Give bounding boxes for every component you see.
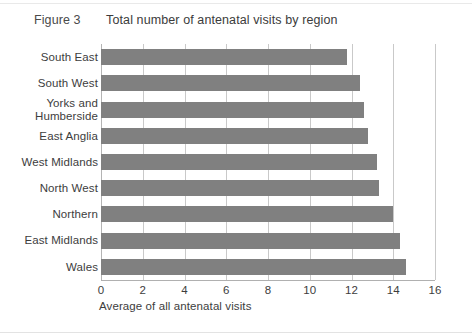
category-label-wales: Wales xyxy=(0,261,98,274)
x-tick-label-12: 12 xyxy=(345,284,358,296)
category-label-line: South East xyxy=(0,51,98,64)
category-axis: South EastSouth WestYorks andHumbersideE… xyxy=(0,44,98,280)
x-tick-label-16: 16 xyxy=(429,284,442,296)
category-label-south-west: South West xyxy=(0,77,98,90)
plot-area xyxy=(101,44,435,280)
x-axis-title: Average of all antenatal visits xyxy=(99,300,251,312)
category-label-south-east: South East xyxy=(0,51,98,64)
bar-fill xyxy=(101,206,393,222)
category-label-north-west: North West xyxy=(0,182,98,195)
bar-south-east[interactable] xyxy=(101,49,347,65)
x-tick-label-0: 0 xyxy=(98,284,104,296)
gridline-16 xyxy=(435,44,436,280)
bar-northern[interactable] xyxy=(101,206,393,222)
bar-west-midlands[interactable] xyxy=(101,154,377,170)
bar-wales[interactable] xyxy=(101,259,406,275)
bar-fill xyxy=(101,154,377,170)
category-label-line: West Midlands xyxy=(0,156,98,169)
category-label-east-midlands: East Midlands xyxy=(0,234,98,247)
bar-east-midlands[interactable] xyxy=(101,233,400,249)
category-label-west-midlands: West Midlands xyxy=(0,156,98,169)
bar-east-anglia[interactable] xyxy=(101,128,368,144)
figure-caption: Figure 3 Total number of antenatal visit… xyxy=(34,10,454,32)
category-label-yorks-and-humberside: Yorks andHumberside xyxy=(0,97,98,122)
bar-fill xyxy=(101,75,360,91)
category-label-line: Humberside xyxy=(0,110,98,123)
figure-title: Total number of antenatal visits by regi… xyxy=(106,13,337,27)
x-tick-label-14: 14 xyxy=(387,284,400,296)
bar-fill xyxy=(101,259,406,275)
bar-fill xyxy=(101,49,347,65)
x-axis-line xyxy=(101,280,435,281)
bar-yorks-and-humberside[interactable] xyxy=(101,102,364,118)
category-label-line: Wales xyxy=(0,261,98,274)
category-label-line: South West xyxy=(0,77,98,90)
x-tick-label-6: 6 xyxy=(223,284,229,296)
category-label-northern: Northern xyxy=(0,208,98,221)
bar-chart: South EastSouth WestYorks andHumbersideE… xyxy=(0,44,472,309)
x-tick-label-4: 4 xyxy=(181,284,187,296)
category-label-line: Northern xyxy=(0,208,98,221)
bar-north-west[interactable] xyxy=(101,180,379,196)
x-tick-label-10: 10 xyxy=(303,284,316,296)
category-label-line: East Midlands xyxy=(0,234,98,247)
x-tick-label-8: 8 xyxy=(265,284,271,296)
x-tick-label-2: 2 xyxy=(140,284,146,296)
category-label-line: Yorks and xyxy=(0,97,98,110)
bar-fill xyxy=(101,102,364,118)
figure-container: Figure 3 Total number of antenatal visit… xyxy=(0,0,472,335)
category-label-east-anglia: East Anglia xyxy=(0,130,98,143)
bar-south-west[interactable] xyxy=(101,75,360,91)
bar-fill xyxy=(101,180,379,196)
category-label-line: North West xyxy=(0,182,98,195)
bar-fill xyxy=(101,128,368,144)
category-label-line: East Anglia xyxy=(0,130,98,143)
bar-fill xyxy=(101,233,400,249)
figure-label: Figure 3 xyxy=(34,13,81,27)
